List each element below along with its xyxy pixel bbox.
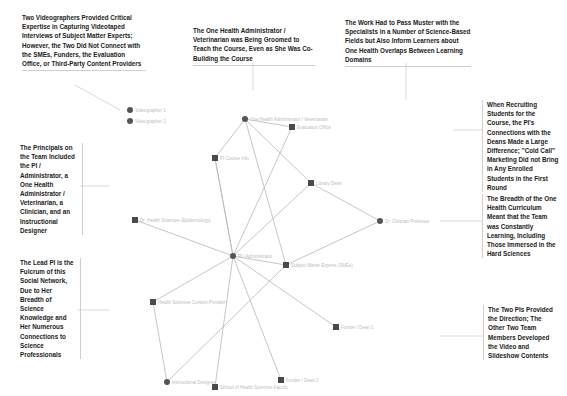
node-oh_faculty[interactable]: School of Health Sciences Faculty <box>212 384 289 390</box>
edge-pi-hs_course <box>153 256 233 302</box>
edge-clinician-sme <box>286 221 380 265</box>
node-videographer2[interactable]: Videographer 2 <box>127 118 166 124</box>
callout-pass-muster: The Work Had to Pass Muster with the Spe… <box>345 18 471 67</box>
node-label: Dr. Health Sciences (Epidemiology) <box>140 218 211 223</box>
callout-principals: The Principals on the Team Included the … <box>20 143 83 235</box>
callout-breadth: The Breadth of the One Health Curriculum… <box>482 194 559 258</box>
node-hs_course[interactable]: Health Sciences Content Provider <box>150 299 226 305</box>
node-label: PI / Administrator <box>238 254 273 259</box>
callout-videographers: Two Videographers Provided Critical Expe… <box>22 13 146 71</box>
circle-node-icon <box>230 253 236 259</box>
node-eval_office[interactable]: Evaluation Office <box>289 124 331 130</box>
node-label: Evaluation Office <box>297 125 331 130</box>
node-label: Videographer 2 <box>135 119 166 124</box>
callout-two-pis: The Two PIs Provided the Direction; The … <box>483 305 554 360</box>
node-designer[interactable]: Instructional Designer <box>164 379 216 385</box>
node-clinician[interactable]: Dr. Clinician Professor <box>377 218 430 224</box>
square-node-icon <box>212 384 218 390</box>
node-label: Funder / Dean 1 <box>341 325 374 330</box>
node-label: One Health Administrator / Veterinarian <box>250 117 329 122</box>
edge-pi-funder2 <box>233 256 281 380</box>
callout-recruiting: When Recruiting Students for the Course,… <box>482 100 559 192</box>
circle-node-icon <box>127 118 133 124</box>
nodes-group: Videographer 1Videographer 2One Health A… <box>127 107 430 390</box>
square-node-icon <box>212 155 218 161</box>
circle-node-icon <box>377 218 383 224</box>
edge-pi-library <box>233 183 311 256</box>
edge-pi-oh_faculty <box>215 256 233 387</box>
circle-node-icon <box>164 379 170 385</box>
edge-oh_admin-course <box>215 119 245 158</box>
square-node-icon <box>278 377 284 383</box>
node-label: Funder / Dean 2 <box>286 378 319 383</box>
square-node-icon <box>283 262 289 268</box>
square-node-icon <box>150 299 156 305</box>
square-node-icon <box>333 324 339 330</box>
node-label: Subject Matter Experts (SMEs) <box>291 263 353 268</box>
node-course[interactable]: PI Course Info <box>212 155 249 161</box>
edge-library-clinician <box>311 183 380 221</box>
edge-hs_course-designer <box>153 302 167 382</box>
square-node-icon <box>132 217 138 223</box>
node-label: School of Health Sciences Faculty <box>220 385 289 390</box>
node-label: Videographer 1 <box>135 108 166 113</box>
node-label: Health Sciences Content Provider <box>158 300 226 305</box>
callout-lead-pi: The Lead PI is the Fulcrum of this Socia… <box>20 258 81 359</box>
node-label: Library Dean <box>316 181 342 186</box>
edge-pi-eval_office <box>233 127 292 256</box>
node-funder2[interactable]: Funder / Dean 2 <box>278 377 319 383</box>
edge-course-pi <box>215 158 233 256</box>
node-sme[interactable]: Subject Matter Experts (SMEs) <box>283 262 353 268</box>
edge-oh_admin-sme <box>245 119 286 265</box>
edge-pi-health_sci <box>135 220 233 256</box>
square-node-icon <box>289 124 295 130</box>
connector-videographers <box>75 85 120 110</box>
node-label: PI Course Info <box>220 156 249 161</box>
node-library[interactable]: Library Dean <box>308 180 342 186</box>
circle-node-icon <box>242 116 248 122</box>
node-label: Dr. Clinician Professor <box>385 219 430 224</box>
node-label: Instructional Designer <box>172 380 216 385</box>
node-oh_admin[interactable]: One Health Administrator / Veterinarian <box>242 116 329 122</box>
node-videographer1[interactable]: Videographer 1 <box>127 107 166 113</box>
edge-designer-sme <box>167 265 286 382</box>
node-health_sci[interactable]: Dr. Health Sciences (Epidemiology) <box>132 217 211 223</box>
square-node-icon <box>308 180 314 186</box>
circle-node-icon <box>127 107 133 113</box>
node-funder1[interactable]: Funder / Dean 1 <box>333 324 374 330</box>
callout-admin-groomed: The One Health Administrator / Veterinar… <box>193 26 315 66</box>
